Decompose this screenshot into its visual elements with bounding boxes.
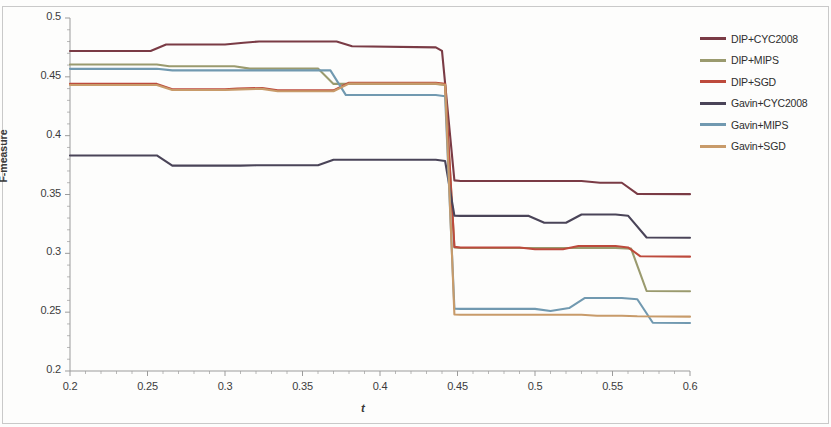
y-axis-title: F-measure [0,129,9,182]
series-layer [70,42,690,323]
y-tick-label: 0.5 [19,10,61,22]
x-tick-label: 0.5 [512,380,558,392]
legend-color-swatch [700,102,726,105]
x-tick-label: 0.4 [357,380,403,392]
legend-item[interactable]: DIP+CYC2008 [700,28,830,50]
series-line [70,83,690,257]
legend-label: DIP+SGD [731,76,776,88]
x-tick-label: 0.55 [590,380,636,392]
x-tick-label: 0.25 [125,380,171,392]
series-line [70,69,690,323]
y-tick-label: 0.35 [19,187,61,199]
legend-label: Gavin+SGD [731,140,786,152]
legend-label: Gavin+CYC2008 [731,97,808,109]
chart-legend: DIP+CYC2008DIP+MIPSDIP+SGDGavin+CYC2008G… [700,28,830,157]
series-line [70,155,690,237]
axis-layer [65,18,690,376]
series-line [70,84,690,317]
y-tick-label: 0.2 [19,363,61,375]
legend-label: DIP+CYC2008 [731,33,798,45]
legend-item[interactable]: DIP+SGD [700,71,830,93]
legend-item[interactable]: Gavin+MIPS [700,114,830,136]
x-tick-label: 0.45 [435,380,481,392]
y-tick-label: 0.25 [19,304,61,316]
y-tick-label: 0.4 [19,128,61,140]
legend-item[interactable]: DIP+MIPS [700,50,830,72]
legend-label: DIP+MIPS [731,54,779,66]
legend-item[interactable]: Gavin+SGD [700,136,830,158]
y-tick-label: 0.3 [19,245,61,257]
legend-color-swatch [700,37,726,40]
x-tick-label: 0.2 [47,380,93,392]
legend-color-swatch [700,80,726,83]
legend-color-swatch [700,59,726,62]
x-tick-label: 0.35 [280,380,326,392]
legend-color-swatch [700,123,726,126]
chart-figure: 0.20.250.30.350.40.450.50.20.250.30.350.… [0,0,831,427]
series-line [70,64,690,291]
legend-item[interactable]: Gavin+CYC2008 [700,93,830,115]
legend-label: Gavin+MIPS [731,119,788,131]
x-axis-title: t [361,402,365,414]
x-tick-label: 0.3 [202,380,248,392]
legend-color-swatch [700,145,726,148]
x-tick-label: 0.6 [667,380,713,392]
y-tick-label: 0.45 [19,69,61,81]
